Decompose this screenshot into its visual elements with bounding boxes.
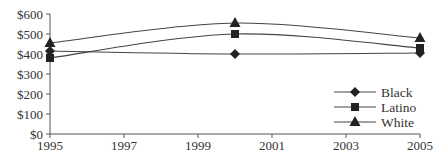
x-tick-label: 2005 — [407, 138, 433, 153]
triangle-marker — [230, 17, 241, 27]
legend-item-black: Black — [334, 85, 413, 100]
y-tick-label: $400 — [17, 47, 43, 62]
legend-label: Black — [381, 85, 413, 100]
series-group — [45, 17, 426, 62]
triangle-marker — [415, 32, 426, 42]
legend-label: Latino — [381, 100, 416, 115]
legend-item-latino: Latino — [334, 100, 416, 115]
x-tick-label: 1995 — [37, 138, 63, 153]
x-tick-label: 2001 — [259, 138, 285, 153]
x-tick-label: 1997 — [111, 138, 138, 153]
legend-label: White — [381, 115, 414, 130]
x-tick-label: 1999 — [185, 138, 211, 153]
y-tick-label: $500 — [17, 27, 43, 42]
series-black — [45, 46, 425, 59]
triangle-icon — [350, 116, 361, 126]
square-marker — [416, 44, 424, 52]
square-marker — [46, 54, 54, 62]
line-chart: $0$100$200$300$400$500$60019951997199920… — [0, 0, 447, 164]
y-tick-label: $100 — [17, 107, 43, 122]
diamond-marker — [230, 49, 240, 59]
diamond-icon — [350, 87, 360, 97]
axes: $0$100$200$300$400$500$60019951997199920… — [17, 7, 433, 154]
x-tick-label: 2003 — [333, 138, 359, 153]
square-icon — [351, 103, 359, 111]
square-marker — [231, 30, 239, 38]
y-tick-label: $200 — [17, 87, 43, 102]
legend-item-white: White — [334, 115, 414, 130]
y-tick-label: $300 — [17, 67, 43, 82]
y-tick-label: $600 — [17, 7, 43, 22]
legend: BlackLatinoWhite — [334, 85, 416, 130]
